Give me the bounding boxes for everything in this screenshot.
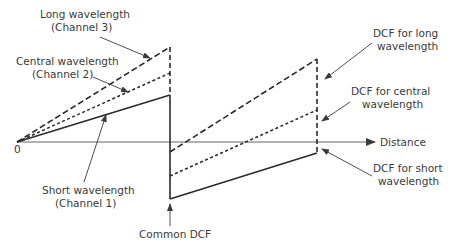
long-wavelength-label: Long wavelength (40, 8, 130, 20)
short-wavelength-channel: (Channel 1) (55, 197, 116, 209)
dcf-long-pointer (325, 43, 372, 79)
distance-axis-label: Distance (380, 136, 426, 148)
short-wavelength-line-2 (170, 153, 317, 199)
dcf-central-pointer (322, 102, 350, 121)
origin-label: 0 (14, 143, 21, 155)
central-wavelength-pointer (93, 77, 128, 92)
short-wavelength-line-1 (17, 95, 170, 142)
dcf-central-label: DCF for central (351, 85, 430, 97)
dcf-short-pointer (322, 149, 372, 176)
central-wavelength-line-2 (170, 110, 317, 176)
dcf-long-label-2: wavelength (377, 40, 438, 52)
dcf-central-label-2: wavelength (362, 98, 423, 110)
common-dcf-label: Common DCF (139, 228, 211, 240)
long-wavelength-channel: (Channel 3) (51, 21, 112, 33)
central-wavelength-line-1 (17, 73, 170, 142)
short-wavelength-label: Short wavelength (42, 184, 135, 196)
diagram-canvas: 0 Distance Long wavelength (Channel 3) C… (0, 0, 449, 244)
dcf-short-label-2: wavelength (378, 175, 439, 187)
central-wavelength-label: Central wavelength (16, 55, 119, 67)
dcf-long-label: DCF for long (373, 27, 438, 39)
dcf-short-label: DCF for short (373, 162, 443, 174)
central-wavelength-channel: (Channel 2) (32, 68, 93, 80)
short-wavelength-pointer (84, 115, 106, 182)
dispersion-diagram: 0 Distance Long wavelength (Channel 3) C… (0, 0, 449, 244)
long-wavelength-line-2 (170, 59, 317, 152)
